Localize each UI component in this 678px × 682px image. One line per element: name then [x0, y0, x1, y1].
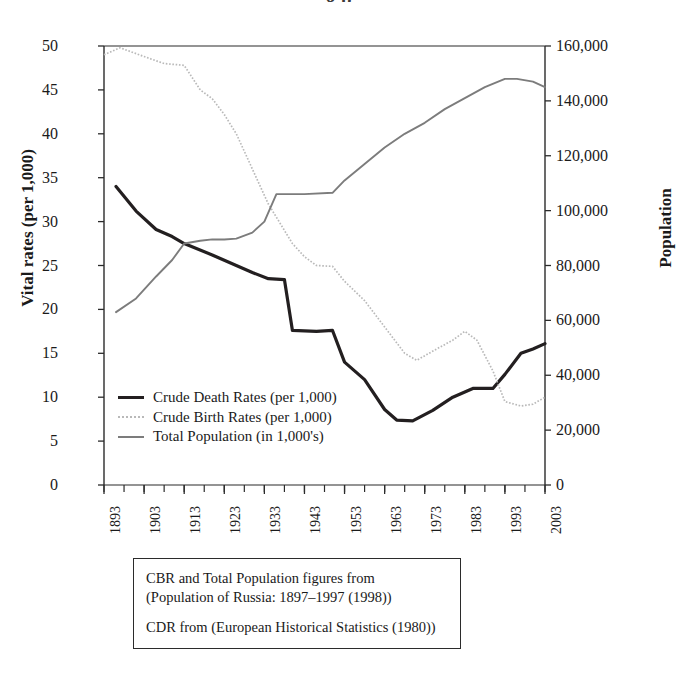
- legend-swatch-pop-icon: [118, 436, 144, 438]
- source-line-3: CDR from (European Historical Statistics…: [146, 618, 448, 637]
- x-tick-label: 1953: [350, 506, 364, 534]
- source-spacer: [146, 607, 448, 618]
- legend-label-pop: Total Population (in 1,000's): [153, 427, 324, 447]
- legend-label-cbr: Crude Birth Rates (per 1,000): [153, 408, 332, 428]
- legend-item-pop: Total Population (in 1,000's): [118, 427, 337, 447]
- legend-swatch-cbr-icon: [118, 416, 144, 418]
- chart-legend: Crude Death Rates (per 1,000) Crude Birt…: [118, 388, 337, 447]
- x-tick-label: 1983: [470, 506, 484, 534]
- x-tick-label: 1993: [510, 506, 524, 534]
- x-tick-label: 1933: [269, 506, 283, 534]
- chart-figure: g p Vital rates (per 1,000) Population 0…: [0, 0, 678, 682]
- source-line-1: CBR and Total Population figures from: [146, 569, 448, 588]
- x-tick-label: 1963: [390, 506, 404, 534]
- x-tick-label: 1943: [309, 506, 323, 534]
- x-tick-label: 1893: [109, 506, 123, 534]
- legend-item-cdr: Crude Death Rates (per 1,000): [118, 388, 337, 408]
- source-note-box: CBR and Total Population figures from (P…: [133, 558, 461, 649]
- x-tick-label: 1913: [189, 506, 203, 534]
- x-tick-label: 1923: [229, 506, 243, 534]
- x-tick-label: 1903: [149, 506, 163, 534]
- source-line-2: (Population of Russia: 1897–1997 (1998)): [146, 588, 448, 607]
- legend-label-cdr: Crude Death Rates (per 1,000): [153, 388, 337, 408]
- legend-item-cbr: Crude Birth Rates (per 1,000): [118, 408, 337, 428]
- legend-swatch-cdr-icon: [118, 396, 144, 399]
- x-tick-label: 2003: [550, 506, 564, 534]
- x-tick-label: 1973: [430, 506, 444, 534]
